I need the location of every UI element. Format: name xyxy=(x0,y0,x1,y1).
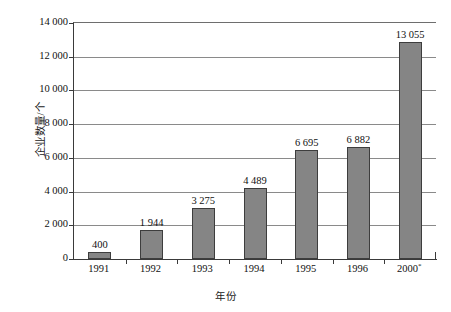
bar-value-label: 6 695 xyxy=(295,137,319,148)
y-tick-mark xyxy=(69,124,74,125)
y-tick-label: 6 000 xyxy=(20,152,68,162)
plot-area: 4001 9443 2754 4896 6956 88213 055 xyxy=(73,22,436,259)
y-tick-mark xyxy=(69,192,74,193)
bar: 3 275 xyxy=(192,208,215,259)
y-tick-label: 0 xyxy=(20,253,68,263)
y-axis-tick-labels: 02 0004 0006 0008 00010 00012 00014 000 xyxy=(16,0,68,312)
x-axis-right-cap xyxy=(435,252,436,259)
x-tick-label: 2000* xyxy=(379,263,439,274)
bar: 6 695 xyxy=(295,150,318,259)
y-tick-label: 10 000 xyxy=(20,84,68,94)
x-axis-title: 年份 xyxy=(0,288,451,303)
gridline xyxy=(74,57,436,58)
y-tick-label: 14 000 xyxy=(20,17,68,27)
y-tick-mark xyxy=(69,90,74,91)
y-tick-label: 12 000 xyxy=(20,51,68,61)
bar-value-label: 1 944 xyxy=(140,217,164,228)
bar: 400 xyxy=(88,252,111,259)
bar-value-label: 13 055 xyxy=(396,29,425,40)
bar-value-label: 3 275 xyxy=(191,195,215,206)
x-axis-line xyxy=(73,259,437,260)
bar: 4 489 xyxy=(244,188,267,259)
y-tick-mark xyxy=(69,259,74,260)
y-tick-mark xyxy=(69,225,74,226)
gridline xyxy=(74,158,436,159)
gridline xyxy=(74,90,436,91)
bar-chart: 企业数量/个 02 0004 0006 0008 00010 00012 000… xyxy=(0,0,451,312)
y-tick-label: 2 000 xyxy=(20,219,68,229)
footnote-marker: * xyxy=(418,262,422,270)
y-tick-mark xyxy=(69,57,74,58)
y-tick-label: 4 000 xyxy=(20,186,68,196)
gridline xyxy=(74,124,436,125)
bar-value-label: 6 882 xyxy=(347,134,371,145)
bar: 13 055 xyxy=(399,42,422,259)
y-tick-label: 8 000 xyxy=(20,118,68,128)
bar: 6 882 xyxy=(347,147,370,259)
bar-value-label: 400 xyxy=(92,239,108,250)
bar-value-label: 4 489 xyxy=(243,175,267,186)
y-tick-mark xyxy=(69,158,74,159)
plot-inner: 4001 9443 2754 4896 6956 88213 055 xyxy=(74,23,436,259)
y-tick-mark xyxy=(69,23,74,24)
bar: 1 944 xyxy=(140,230,163,259)
